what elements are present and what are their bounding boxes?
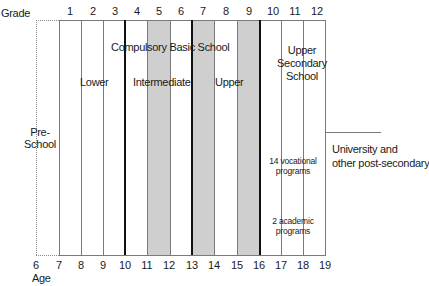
age-axis-label: Age [32, 272, 51, 284]
age-number: 8 [71, 259, 91, 271]
age-number: 7 [49, 259, 69, 271]
upper-secondary-line3: School [266, 70, 338, 83]
column-line [237, 20, 238, 255]
grade-number: 2 [83, 5, 103, 17]
age-number: 12 [159, 259, 179, 271]
grade-number: 5 [149, 5, 169, 17]
age-number: 14 [204, 259, 224, 271]
age-number: 18 [293, 259, 313, 271]
compulsory-basic-school-label: Compulsory Basic School [111, 41, 229, 53]
intermediate-stage-label: Intermediate [133, 76, 191, 88]
age-number: 10 [115, 259, 135, 271]
academic-programs-label: 2 academic programs [258, 216, 328, 236]
upper-secondary-line1: Upper [266, 44, 338, 57]
vocational-line2: programs [258, 166, 328, 176]
age-number: 9 [93, 259, 113, 271]
upper-secondary-line2: Secondary [266, 57, 338, 70]
column-line [103, 20, 104, 255]
upper-secondary-school-label: Upper Secondary School [266, 44, 338, 83]
grade-number: 6 [171, 5, 191, 17]
age-number: 17 [271, 259, 291, 271]
grade-number: 1 [60, 5, 80, 17]
grade-number: 11 [285, 5, 305, 17]
vocational-line1: 14 vocational [258, 156, 328, 166]
vocational-programs-label: 14 vocational programs [258, 156, 328, 176]
preschool-top-border [36, 20, 59, 21]
grade-number: 3 [105, 5, 125, 17]
grade-number: 7 [193, 5, 213, 17]
stage-divider-line [124, 20, 126, 255]
age-number: 19 [315, 259, 335, 271]
academic-line2: programs [258, 226, 328, 236]
column-line [147, 20, 148, 255]
age-number: 6 [26, 259, 46, 271]
grade-number: 10 [263, 5, 283, 17]
age-number: 13 [182, 259, 202, 271]
shaded-column-grade-5 [147, 20, 170, 255]
chart-bottom-border [59, 255, 326, 256]
grade-number: 9 [239, 5, 259, 17]
age-number: 15 [227, 259, 247, 271]
stage-divider-line [191, 20, 193, 255]
grade-axis-label: Grade [1, 7, 30, 19]
preschool-bottom-border [36, 255, 59, 256]
grade-number: 12 [307, 5, 327, 17]
column-line [214, 20, 215, 255]
upper-stage-label: Upper [215, 76, 243, 88]
university-line2: other post-secondary [332, 156, 429, 170]
shaded-column-grade-9 [237, 20, 259, 255]
academic-line1: 2 academic [258, 216, 328, 226]
column-line [81, 20, 82, 255]
university-label: University and other post-secondary [332, 142, 429, 170]
lower-stage-label: Lower [80, 76, 108, 88]
shaded-column-grade-7 [192, 20, 214, 255]
grade-number: 4 [127, 5, 147, 17]
university-line1: University and [332, 142, 429, 156]
grade-number: 8 [216, 5, 236, 17]
age-number: 16 [249, 259, 269, 271]
preschool-label-line2: School [20, 138, 60, 150]
preschool-label-line1: Pre- [20, 126, 60, 138]
age-number: 11 [137, 259, 157, 271]
university-top-line [326, 132, 381, 133]
column-line [170, 20, 171, 255]
preschool-label: Pre- School [20, 126, 60, 150]
